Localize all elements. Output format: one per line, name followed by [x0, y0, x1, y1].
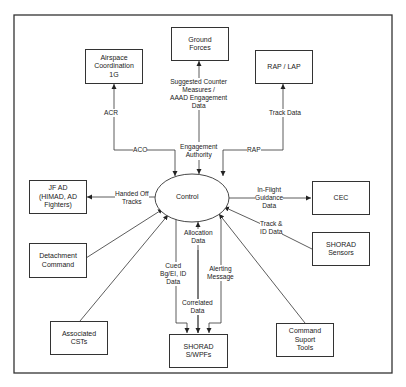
control-node: Control [176, 193, 199, 200]
airspace-coordination-box: Airspace Coordination 1G [85, 49, 143, 84]
ground-forces-box: Ground Forces [171, 27, 229, 61]
jf-ad-box: JF AD (HIMAD, AD Fighters) [29, 180, 87, 214]
rap-lap-box: RAP / LAP [255, 50, 313, 84]
shorad-sensors-box: SHORAD Sensors [312, 232, 370, 266]
edge-label-alerting: Alerting Message [207, 265, 234, 281]
edge-label-allocation: Allocation Data [184, 229, 213, 245]
edge-label-track-data: Track Data [269, 109, 301, 117]
edge-label-cued: Cued Bg/EI, ID Data [160, 262, 186, 286]
edge-label-aco: ACO [133, 146, 147, 154]
edge-label-track-id: Track & ID Data [260, 220, 282, 236]
associated-csts-box: Associated CSTs [50, 321, 108, 355]
command-support-tools-box: Command Suport Tools [276, 323, 334, 357]
cec-box: CEC [312, 181, 370, 215]
edge-label-acr: ACR [104, 109, 118, 117]
detachment-command-box: Detachment Command [29, 243, 87, 278]
edge-label-correlated: Correlated Data [182, 299, 213, 315]
shorad-swpfs-box: SHORAD S/WPFs [169, 334, 228, 368]
edge-label-handed-off: Handed Off Tracks [115, 190, 149, 206]
edge-label-inflight: In-Flight Guidance Data [255, 186, 283, 210]
edge-label-engagement: Engagement Authority [180, 142, 217, 160]
edge-label-rap: RAP [247, 146, 261, 154]
edge-label-suggested: Suggested Counter Measures / AAAD Engage… [170, 78, 227, 110]
